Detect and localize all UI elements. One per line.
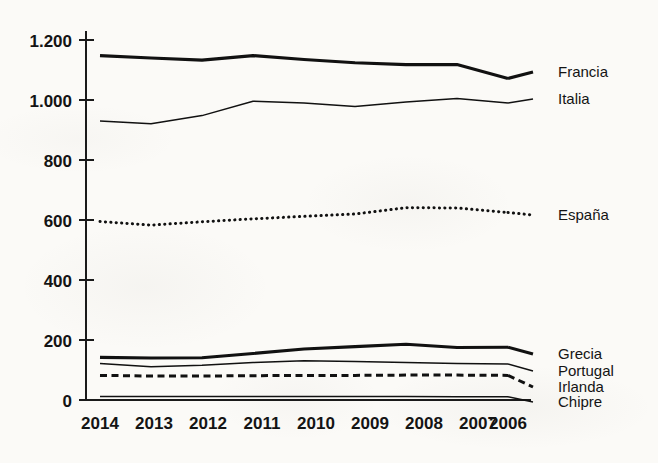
legend-stub-espaa: [508, 213, 533, 216]
x-tick-label: 2010: [297, 414, 335, 433]
series-line-espaa: [100, 208, 508, 225]
x-tick-label: 2014: [81, 414, 119, 433]
x-tick-label: 2008: [405, 414, 443, 433]
series-layer: [100, 56, 508, 397]
y-tick-label: 400: [44, 272, 72, 291]
legend-label-grecia: Grecia: [558, 345, 603, 362]
legend-stub-grecia: [508, 347, 533, 354]
x-tick-label: 2013: [135, 414, 173, 433]
legend-label-espaa: España: [558, 206, 610, 223]
y-tick-label: 600: [44, 212, 72, 231]
chart-page: 1.200 1.000 800 600 400 200 0 2014 2013 …: [0, 0, 658, 463]
x-tick-label: 2009: [351, 414, 389, 433]
x-axis-labels: 2014 2013 2012 2011 2010 2009 2008 2007 …: [81, 414, 527, 433]
legend-label-italia: Italia: [558, 90, 590, 107]
legend-stub-portugal: [508, 364, 533, 371]
series-line-irlanda: [100, 375, 508, 376]
legend-label-francia: Francia: [558, 63, 609, 80]
x-tick-label: 2012: [189, 414, 227, 433]
series-line-portugal: [100, 361, 508, 367]
legend-label-chipre: Chipre: [558, 393, 602, 410]
legend-stub-irlanda: [508, 375, 533, 387]
y-tick-label: 200: [44, 332, 72, 351]
y-tick-label: 0: [63, 392, 72, 411]
chart-legend: FranciaItaliaEspañaGreciaPortugalIrlanda…: [508, 63, 614, 410]
series-line-italia: [100, 99, 508, 124]
y-tick-label: 1.000: [29, 92, 72, 111]
legend-stub-italia: [508, 99, 533, 103]
legend-label-portugal: Portugal: [558, 362, 614, 379]
legend-stub-francia: [508, 72, 533, 78]
x-tick-label: 2011: [244, 414, 281, 433]
y-axis-labels: 1.200 1.000 800 600 400 200 0: [29, 32, 72, 411]
series-line-grecia: [100, 344, 508, 358]
y-tick-label: 800: [44, 152, 72, 171]
x-tick-label: 2006: [489, 414, 527, 433]
y-tick-label: 1.200: [29, 32, 72, 51]
series-line-francia: [100, 56, 508, 79]
line-chart: 1.200 1.000 800 600 400 200 0 2014 2013 …: [0, 0, 658, 463]
